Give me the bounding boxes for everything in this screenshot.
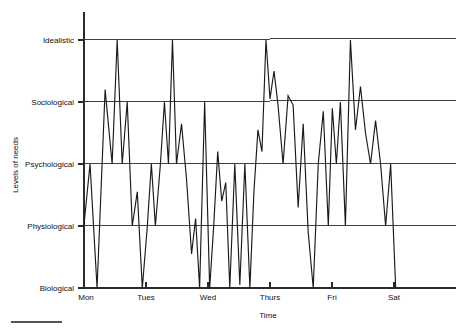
x-tick-label-sat: Sat	[388, 293, 401, 302]
x-tick-label-wed: Wed	[200, 293, 216, 302]
gridline-sociological	[84, 100, 456, 102]
x-tick-marks	[84, 282, 394, 288]
gridline-idealistic	[84, 38, 456, 40]
x-tick-label-tues: Tues	[137, 293, 155, 302]
x-tick-labels: Mon Tues Wed Thurs Fri Sat	[78, 293, 401, 302]
x-tick-label-thurs: Thurs	[260, 293, 280, 302]
y-tick-labels: Idealistic Sociological Psychological Ph…	[25, 36, 74, 293]
gridline-psychological	[84, 163, 456, 164]
y-tick-label-physiological: Physiological	[27, 222, 74, 231]
levels-of-needs-line-chart: Idealistic Sociological Psychological Ph…	[0, 0, 465, 332]
y-tick-label-idealistic: Idealistic	[43, 36, 74, 45]
y-tick-label-biological: Biological	[40, 284, 74, 293]
y-tick-marks	[78, 40, 84, 288]
y-tick-label-psychological: Psychological	[25, 160, 74, 169]
y-tick-label-sociological: Sociological	[31, 98, 74, 107]
gridline-physiological	[84, 225, 456, 226]
y-axis-title: Levels of needs	[11, 137, 20, 193]
x-tick-label-fri: Fri	[327, 293, 337, 302]
x-axis-title: Time	[259, 311, 277, 320]
x-tick-label-mon: Mon	[78, 293, 94, 302]
chart-figure: Idealistic Sociological Psychological Ph…	[0, 0, 465, 332]
gridlines	[84, 38, 456, 226]
